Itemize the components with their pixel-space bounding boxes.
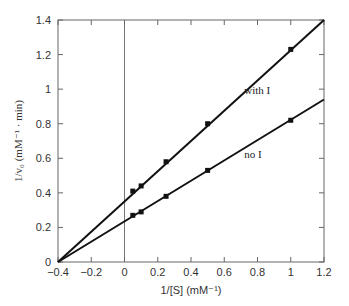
y-tick-label: 1.4 bbox=[36, 14, 51, 26]
x-tick-label: 0.8 bbox=[250, 266, 265, 278]
data-point bbox=[288, 118, 293, 123]
series-label-with-i: with I bbox=[244, 84, 270, 96]
data-point bbox=[139, 209, 144, 214]
data-point bbox=[139, 183, 144, 188]
x-tick-label: 0 bbox=[121, 266, 127, 278]
data-point bbox=[164, 194, 169, 199]
y-tick-label: 0.2 bbox=[36, 221, 51, 233]
y-axis-ticks: 00.20.40.60.811.21.4 bbox=[36, 14, 324, 268]
data-point bbox=[205, 168, 210, 173]
x-tick-label: 1 bbox=[288, 266, 294, 278]
x-tick-label: 0.2 bbox=[150, 266, 165, 278]
x-tick-label: 0.6 bbox=[217, 266, 232, 278]
data-point bbox=[205, 121, 210, 126]
lineweaver-burk-chart: −0.4−0.200.20.40.60.811.2 00.20.40.60.81… bbox=[0, 0, 349, 306]
y-tick-label: 0 bbox=[45, 256, 51, 268]
fit-line bbox=[58, 100, 324, 262]
data-point bbox=[130, 213, 135, 218]
x-axis-ticks: −0.4−0.200.20.40.60.811.2 bbox=[47, 20, 332, 278]
data-point bbox=[130, 189, 135, 194]
y-tick-label: 1 bbox=[45, 83, 51, 95]
fit-line bbox=[58, 20, 324, 262]
y-axis-title: 1/v₀ (mM⁻¹ · min) bbox=[12, 100, 25, 182]
series-label-no-i: no I bbox=[244, 148, 262, 160]
series-group bbox=[58, 20, 324, 262]
y-tick-label: 0.6 bbox=[36, 152, 51, 164]
data-point bbox=[288, 47, 293, 52]
y-tick-label: 0.4 bbox=[36, 187, 51, 199]
x-axis-title: 1/[S] (mM⁻¹) bbox=[161, 284, 222, 296]
data-point bbox=[164, 159, 169, 164]
x-tick-label: 0.4 bbox=[183, 266, 198, 278]
y-tick-label: 0.8 bbox=[36, 118, 51, 130]
x-tick-label: −0.2 bbox=[80, 266, 102, 278]
x-tick-label: 1.2 bbox=[316, 266, 331, 278]
y-tick-label: 1.2 bbox=[36, 49, 51, 61]
